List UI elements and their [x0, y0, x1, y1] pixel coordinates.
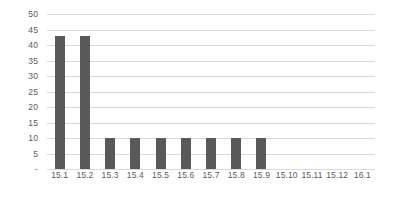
bar[interactable] — [105, 138, 115, 169]
x-axis-tick-label: 15.6 — [173, 171, 198, 180]
bar[interactable] — [256, 138, 266, 169]
bar-slot — [72, 14, 97, 169]
bar-slot — [274, 14, 299, 169]
bar-slot — [325, 14, 350, 169]
x-axis-tick-label: 15.7 — [198, 171, 223, 180]
bar-slot — [224, 14, 249, 169]
y-axis-tick-label: 45 — [28, 25, 38, 34]
bar-slot — [198, 14, 223, 169]
plot-area — [47, 14, 375, 169]
y-axis-tick-label: 50 — [28, 10, 38, 19]
bar[interactable] — [181, 138, 191, 169]
bar-slot — [148, 14, 173, 169]
bar-slot — [123, 14, 148, 169]
x-axis-tick-label: 15.4 — [123, 171, 148, 180]
x-axis-tick-label: 15.11 — [299, 171, 324, 180]
bar-slot — [249, 14, 274, 169]
bar-chart: 50 45 40 35 30 25 20 15 10 5 - 15.115.21… — [0, 0, 394, 200]
bar[interactable] — [55, 36, 65, 169]
x-axis-tick-label: 15.8 — [224, 171, 249, 180]
bar-slot — [299, 14, 324, 169]
y-axis-tick-label: 40 — [28, 41, 38, 50]
y-axis-tick-label: 35 — [28, 56, 38, 65]
x-axis-tick-label: 15.2 — [72, 171, 97, 180]
bar-slot — [47, 14, 72, 169]
y-axis-tick-label: 15 — [28, 118, 38, 127]
y-axis-tick-label: - — [35, 165, 38, 174]
bar-slot — [350, 14, 375, 169]
x-axis-tick-label: 16.1 — [350, 171, 375, 180]
x-axis-tick-label: 15.9 — [249, 171, 274, 180]
x-axis-tick-label: 15.12 — [325, 171, 350, 180]
bar[interactable] — [80, 36, 90, 169]
y-axis-tick-label: 30 — [28, 72, 38, 81]
x-axis-tick-label: 15.3 — [97, 171, 122, 180]
bar[interactable] — [231, 138, 241, 169]
bar-slot — [173, 14, 198, 169]
y-axis-labels: 50 45 40 35 30 25 20 15 10 5 - — [0, 14, 44, 169]
y-axis-tick-label: 5 — [33, 149, 38, 158]
bar-series — [47, 14, 375, 169]
y-axis-tick-label: 25 — [28, 87, 38, 96]
bar[interactable] — [156, 138, 166, 169]
x-axis-tick-label: 15.10 — [274, 171, 299, 180]
y-axis-tick-label: 10 — [28, 134, 38, 143]
y-axis-tick-label: 20 — [28, 103, 38, 112]
x-axis-tick-label: 15.5 — [148, 171, 173, 180]
bar-slot — [97, 14, 122, 169]
x-axis-labels: 15.115.215.315.415.515.615.715.815.915.1… — [47, 171, 375, 180]
x-axis-tick-label: 15.1 — [47, 171, 72, 180]
bar[interactable] — [130, 138, 140, 169]
bar[interactable] — [206, 138, 216, 169]
